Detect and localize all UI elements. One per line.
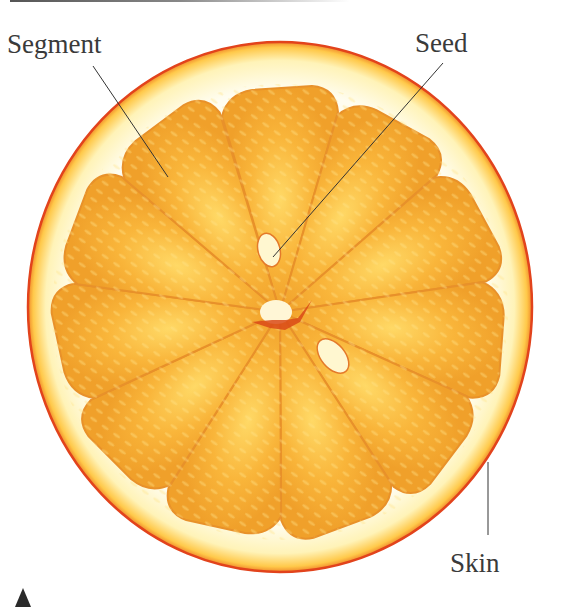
segment-label: Segment xyxy=(7,31,102,58)
triangle-marker-icon xyxy=(15,588,31,607)
seed-label: Seed xyxy=(415,30,467,57)
skin-label: Skin xyxy=(450,550,500,577)
orange-illustration xyxy=(0,0,561,607)
